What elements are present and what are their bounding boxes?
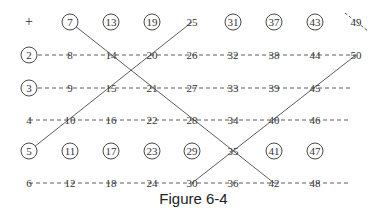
svg-text:12: 12 <box>65 177 76 189</box>
number-cell: 12 <box>65 177 76 189</box>
svg-text:46: 46 <box>310 114 322 126</box>
svg-text:9: 9 <box>67 82 73 94</box>
number-cell: 3 <box>21 80 37 96</box>
number-cell: 20 <box>147 49 159 61</box>
number-cell: 4 <box>26 114 32 126</box>
svg-text:37: 37 <box>269 16 281 28</box>
number-cell: 31 <box>225 14 241 30</box>
svg-text:5: 5 <box>26 145 32 157</box>
svg-text:33: 33 <box>228 82 240 94</box>
number-cell: 30 <box>187 177 199 189</box>
svg-text:3: 3 <box>26 82 32 94</box>
number-cell: 37 <box>266 14 282 30</box>
svg-text:43: 43 <box>310 16 322 28</box>
svg-text:18: 18 <box>106 177 118 189</box>
svg-text:24: 24 <box>147 177 159 189</box>
svg-text:50: 50 <box>351 49 363 61</box>
number-cell: 36 <box>228 177 240 189</box>
number-cell: 29 <box>184 143 200 159</box>
number-cell: 35 <box>228 145 240 157</box>
svg-text:22: 22 <box>147 114 158 126</box>
number-cell: 47 <box>307 143 323 159</box>
svg-text:23: 23 <box>147 145 159 157</box>
number-cell: 9 <box>67 82 73 94</box>
number-cell: 17 <box>103 143 119 159</box>
number-cell: 43 <box>307 14 323 30</box>
number-cell: 33 <box>228 82 240 94</box>
number-cell: 11 <box>62 143 78 159</box>
number-cell: 44 <box>310 49 322 61</box>
number-cell: 2 <box>21 47 37 63</box>
number-cell: 39 <box>269 82 281 94</box>
svg-text:41: 41 <box>269 145 280 157</box>
number-cell: 32 <box>228 49 239 61</box>
svg-text:21: 21 <box>147 82 158 94</box>
number-cell: 48 <box>310 177 322 189</box>
number-cell: 10 <box>65 114 77 126</box>
number-cell: 46 <box>310 114 322 126</box>
number-cell: 45 <box>310 82 322 94</box>
svg-text:45: 45 <box>310 82 322 94</box>
number-cell: 25 <box>187 16 199 28</box>
svg-text:42: 42 <box>269 177 280 189</box>
svg-text:35: 35 <box>228 145 240 157</box>
number-cell: 22 <box>147 114 158 126</box>
svg-text:7: 7 <box>67 16 73 28</box>
svg-text:19: 19 <box>147 16 159 28</box>
number-cell: + <box>25 14 33 29</box>
svg-text:26: 26 <box>187 49 199 61</box>
svg-text:17: 17 <box>106 145 118 157</box>
svg-text:25: 25 <box>187 16 199 28</box>
number-cell: 14 <box>106 49 118 61</box>
svg-text:29: 29 <box>187 145 199 157</box>
number-cell: 8 <box>67 49 73 61</box>
svg-text:48: 48 <box>310 177 322 189</box>
number-cell: 38 <box>269 49 281 61</box>
svg-text:8: 8 <box>67 49 73 61</box>
number-cell: 49 <box>351 16 363 28</box>
number-cell: 26 <box>187 49 199 61</box>
svg-text:31: 31 <box>228 16 239 28</box>
number-cell: 40 <box>269 114 281 126</box>
svg-text:36: 36 <box>228 177 240 189</box>
svg-text:27: 27 <box>187 82 199 94</box>
svg-text:49: 49 <box>351 16 363 28</box>
svg-text:2: 2 <box>26 49 32 61</box>
svg-text:32: 32 <box>228 49 239 61</box>
svg-text:15: 15 <box>106 82 118 94</box>
number-cell: 50 <box>351 49 363 61</box>
sieve-diagram: +713192531374349281420263238445039152127… <box>0 0 387 214</box>
number-cell: 34 <box>228 114 240 126</box>
svg-text:13: 13 <box>106 16 118 28</box>
svg-text:11: 11 <box>65 145 76 157</box>
number-cell: 13 <box>103 14 119 30</box>
number-cell: 6 <box>26 177 32 189</box>
number-cell: 24 <box>147 177 159 189</box>
diagonal-line <box>70 22 274 183</box>
svg-text:39: 39 <box>269 82 281 94</box>
svg-text:14: 14 <box>106 49 118 61</box>
number-cell: 18 <box>106 177 118 189</box>
number-cell: 42 <box>269 177 280 189</box>
svg-text:44: 44 <box>310 49 322 61</box>
svg-text:47: 47 <box>310 145 322 157</box>
svg-text:20: 20 <box>147 49 159 61</box>
number-cell: 16 <box>106 114 118 126</box>
svg-text:38: 38 <box>269 49 281 61</box>
svg-text:16: 16 <box>106 114 118 126</box>
number-cell: 7 <box>62 14 78 30</box>
number-cell: 19 <box>144 14 160 30</box>
figure-caption: Figure 6-4 <box>0 190 387 207</box>
svg-text:30: 30 <box>187 177 199 189</box>
svg-text:40: 40 <box>269 114 281 126</box>
svg-text:6: 6 <box>26 177 32 189</box>
number-cell: 23 <box>144 143 160 159</box>
number-cell: 28 <box>187 114 199 126</box>
number-cell: 41 <box>266 143 282 159</box>
number-cell: 15 <box>106 82 118 94</box>
svg-text:34: 34 <box>228 114 240 126</box>
svg-text:28: 28 <box>187 114 199 126</box>
svg-text:4: 4 <box>26 114 32 126</box>
svg-text:+: + <box>25 14 33 29</box>
number-cell: 27 <box>187 82 199 94</box>
